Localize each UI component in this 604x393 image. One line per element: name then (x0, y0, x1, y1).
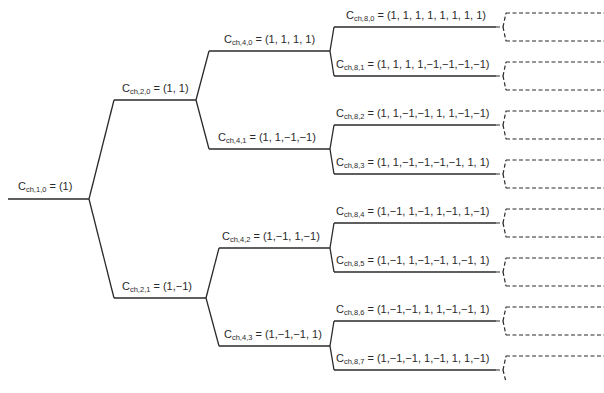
code-label-ch-4-0: Cch,4,0 = (1, 1, 1, 1) (224, 33, 315, 45)
edge-ch-4-0-ch-8-1 (330, 51, 334, 76)
edge-ch-4-2-ch-8-4 (330, 223, 334, 248)
edge-ch-1-0-ch-2-1 (89, 199, 114, 298)
code-symbol: C (18, 180, 26, 192)
code-symbol: C (224, 328, 232, 340)
dash-down-ch-8-4 (503, 223, 506, 237)
code-equals: = (252, 328, 265, 340)
code-value: (1, 1,−1,−1) (259, 131, 316, 143)
dash-up-ch-8-7 (503, 356, 506, 370)
code-value: (1,−1,−1, 1) (265, 328, 322, 340)
code-label-ch-2-0: Cch,2,0 = (1, 1) (122, 82, 189, 94)
dash-up-ch-8-2 (503, 111, 506, 125)
dash-up-ch-8-1 (503, 62, 506, 76)
code-subscript: ch,4,1 (226, 136, 246, 145)
code-subscript: ch,8,2 (344, 112, 364, 121)
code-value: (1, 1,−1,−1, 1, 1,−1,−1) (377, 107, 490, 119)
code-symbol: C (336, 107, 344, 119)
code-symbol: C (122, 280, 130, 292)
code-value: (1,−1,−1, 1, 1,−1,−1, 1) (377, 303, 490, 315)
code-equals: = (46, 180, 59, 192)
edge-ch-2-0-ch-4-1 (196, 100, 209, 149)
edge-ch-4-3-ch-8-7 (330, 346, 334, 370)
edge-ch-1-0-ch-2-0 (89, 100, 114, 199)
code-value: (1,−1, 1,−1,−1, 1,−1, 1) (377, 254, 490, 266)
edge-ch-4-1-ch-8-3 (330, 149, 334, 174)
code-symbol: C (336, 303, 344, 315)
code-equals: = (364, 303, 377, 315)
code-value: (1, 1, 1, 1, 1, 1, 1, 1) (387, 9, 486, 21)
tree-branches (8, 27, 496, 370)
dash-down-ch-8-7 (503, 370, 506, 382)
dash-down-ch-8-0 (503, 27, 506, 41)
code-value: (1, 1, 1, 1) (265, 33, 315, 45)
code-value: (1, 1, 1, 1,−1,−1,−1,−1) (377, 58, 490, 70)
dash-up-ch-8-4 (503, 209, 506, 223)
code-subscript: ch,8,3 (344, 161, 364, 170)
code-label-ch-4-3: Cch,4,3 = (1,−1,−1, 1) (224, 328, 322, 340)
code-label-ch-2-1: Cch,2,1 = (1,−1) (122, 280, 192, 292)
code-subscript: ch,4,0 (232, 38, 252, 47)
code-subscript: ch,2,0 (130, 87, 150, 96)
code-label-ch-4-1: Cch,4,1 = (1, 1,−1,−1) (218, 131, 316, 143)
code-equals: = (364, 254, 377, 266)
code-subscript: ch,1,0 (26, 185, 46, 194)
code-label-ch-1-0: Cch,1,0 = (1) (18, 180, 72, 192)
edge-ch-4-2-ch-8-5 (330, 248, 334, 272)
edge-ch-2-1-ch-4-3 (206, 298, 219, 346)
code-subscript: ch,8,6 (344, 308, 364, 317)
code-equals: = (150, 280, 163, 292)
code-label-ch-8-0: Cch,8,0 = (1, 1, 1, 1, 1, 1, 1, 1) (346, 9, 486, 21)
code-value: (1,−1) (163, 280, 192, 292)
edge-ch-4-1-ch-8-2 (330, 125, 334, 149)
code-subscript: ch,2,1 (130, 285, 150, 294)
code-symbol: C (336, 352, 344, 364)
code-subscript: ch,8,0 (354, 14, 374, 23)
code-symbol: C (336, 58, 344, 70)
code-label-ch-8-2: Cch,8,2 = (1, 1,−1,−1, 1, 1,−1,−1) (336, 107, 489, 119)
code-symbol: C (218, 131, 226, 143)
code-equals: = (150, 82, 163, 94)
tree-continuation-branches (496, 13, 604, 382)
code-equals: = (364, 156, 377, 168)
code-subscript: ch,8,7 (344, 357, 364, 366)
code-equals: = (374, 9, 387, 21)
code-equals: = (246, 131, 259, 143)
code-equals: = (364, 107, 377, 119)
code-subscript: ch,4,3 (232, 333, 252, 342)
dash-down-ch-8-2 (503, 125, 506, 139)
code-subscript: ch,8,4 (344, 210, 364, 219)
dash-down-ch-8-5 (503, 272, 506, 286)
code-label-ch-8-1: Cch,8,1 = (1, 1, 1, 1,−1,−1,−1,−1) (336, 58, 489, 70)
code-label-ch-8-4: Cch,8,4 = (1,−1, 1,−1, 1,−1, 1,−1) (336, 205, 489, 217)
code-value: (1) (59, 180, 72, 192)
code-symbol: C (336, 156, 344, 168)
edge-ch-4-3-ch-8-6 (330, 321, 334, 346)
code-subscript: ch,8,5 (344, 259, 364, 268)
dash-up-ch-8-3 (503, 160, 506, 174)
code-label-ch-8-7: Cch,8,7 = (1,−1,−1, 1,−1, 1, 1,−1) (336, 352, 489, 364)
code-value: (1,−1, 1,−1, 1,−1, 1,−1) (377, 205, 490, 217)
edge-ch-2-1-ch-4-2 (206, 248, 219, 298)
code-symbol: C (122, 82, 130, 94)
code-symbol: C (222, 230, 230, 242)
code-equals: = (252, 33, 265, 45)
dash-down-ch-8-3 (503, 174, 506, 188)
code-equals: = (364, 58, 377, 70)
code-subscript: ch,4,2 (230, 235, 250, 244)
dash-down-ch-8-1 (503, 76, 506, 90)
dash-up-ch-8-5 (503, 258, 506, 272)
code-value: (1, 1,−1,−1,−1,−1, 1, 1) (377, 156, 490, 168)
edge-ch-4-0-ch-8-0 (330, 27, 334, 51)
code-label-ch-8-6: Cch,8,6 = (1,−1,−1, 1, 1,−1,−1, 1) (336, 303, 489, 315)
dash-up-ch-8-0 (503, 13, 506, 27)
code-symbol: C (336, 205, 344, 217)
dash-up-ch-8-6 (503, 307, 506, 321)
code-value: (1,−1,−1, 1,−1, 1, 1,−1) (377, 352, 490, 364)
code-symbol: C (346, 9, 354, 21)
code-label-ch-8-5: Cch,8,5 = (1,−1, 1,−1,−1, 1,−1, 1) (336, 254, 489, 266)
code-equals: = (364, 205, 377, 217)
dash-down-ch-8-6 (503, 321, 506, 335)
code-subscript: ch,8,1 (344, 63, 364, 72)
code-equals: = (250, 230, 263, 242)
code-symbol: C (336, 254, 344, 266)
